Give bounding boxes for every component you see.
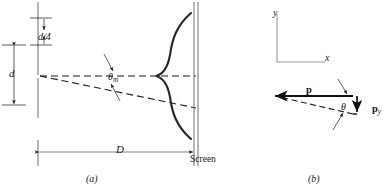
screen-label: Screen [190,155,216,165]
momentum-y-subscript: y [378,107,381,116]
scattering-angle-label: θ [341,102,346,112]
axis-label-y: y [273,8,277,18]
diffraction-angle-label: θm [108,72,118,84]
momentum-y-label: py [372,104,381,116]
distance-label: D [116,144,124,155]
theta-subscript: m [113,76,118,84]
slit-width-label: d [9,68,15,79]
panel-b-caption: (b) [308,174,320,184]
coordinate-axes [277,14,325,62]
diffraction-figure: d d/4 θm D Screen (a) y x p θ py (b) [0,0,389,192]
momentum-label: p [306,85,312,96]
screen-line [194,2,198,166]
axis-label-x: x [325,53,329,63]
panel-a-caption: (a) [86,174,98,184]
quarter-slit-label: d/4 [38,32,51,42]
